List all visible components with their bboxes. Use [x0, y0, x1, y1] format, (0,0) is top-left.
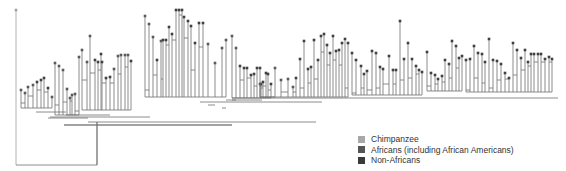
tip-marker: [310, 66, 313, 69]
tip-marker: [109, 76, 112, 79]
tip-marker: [320, 35, 323, 38]
tip-marker: [243, 67, 246, 70]
tip-marker: [94, 59, 97, 62]
tip-marker: [351, 52, 354, 55]
tip-marker: [187, 20, 190, 23]
legend-swatch-africans: [358, 146, 365, 153]
tip-marker: [492, 59, 495, 62]
tip-marker: [246, 67, 249, 70]
tip-marker: [113, 68, 116, 71]
tip-marker: [24, 92, 27, 95]
tip-marker: [231, 35, 234, 38]
tip-marker: [267, 73, 270, 76]
legend-label: Africans (including African Americans): [371, 145, 514, 155]
tip-marker: [81, 49, 84, 52]
tip-marker: [221, 47, 224, 50]
tip-marker: [36, 81, 39, 84]
tip-marker: [421, 71, 424, 74]
tip-marker: [326, 44, 329, 47]
tip-marker: [371, 50, 374, 53]
tip-marker: [544, 58, 547, 61]
tip-marker: [448, 63, 451, 66]
tip-marker: [86, 61, 89, 64]
tip-marker: [127, 54, 130, 57]
tip-marker: [395, 69, 398, 72]
tip-marker: [520, 57, 523, 60]
tip-marker: [430, 72, 433, 75]
legend-label: Chimpanzee: [371, 134, 419, 144]
tip-marker: [481, 53, 484, 56]
tip-marker: [259, 67, 262, 70]
tip-marker: [47, 87, 50, 90]
tip-marker: [66, 88, 69, 91]
tip-marker: [105, 77, 108, 80]
tip-marker: [392, 69, 395, 72]
tip-marker: [78, 56, 81, 59]
tip-marker: [527, 61, 530, 64]
tip-marker: [58, 65, 61, 68]
tip-marker: [469, 58, 472, 61]
tip-marker: [379, 66, 382, 69]
tip-marker: [488, 38, 491, 41]
tip-marker: [437, 78, 440, 81]
tip-marker: [500, 63, 503, 66]
tip-marker: [329, 52, 332, 55]
tip-marker: [411, 58, 414, 61]
tip-marker: [43, 77, 46, 80]
tip-marker: [130, 60, 133, 63]
tip-marker: [418, 69, 421, 72]
tip-marker: [156, 59, 159, 62]
tip-marker: [175, 9, 178, 12]
tip-marker: [148, 23, 151, 26]
tip-marker: [178, 9, 181, 12]
tip-marker: [335, 50, 338, 53]
legend-item-africans: Africans (including African Americans): [358, 145, 514, 156]
tip-marker: [270, 83, 273, 86]
tip-marker: [292, 86, 295, 89]
tip-marker: [152, 36, 155, 39]
tip-marker: [162, 39, 165, 42]
tip-marker: [540, 53, 543, 56]
tip-marker: [117, 55, 120, 58]
tip-marker: [262, 81, 265, 84]
tip-marker: [51, 96, 54, 99]
tip-marker: [27, 86, 30, 89]
legend-item-chimpanzee: Chimpanzee: [358, 134, 514, 145]
tip-marker: [253, 73, 256, 76]
tip-marker: [548, 56, 551, 59]
tip-marker: [341, 42, 344, 45]
tip-marker: [441, 75, 444, 78]
tip-marker: [347, 42, 350, 45]
tip-marker: [323, 33, 326, 36]
tip-marker: [355, 59, 358, 62]
tip-marker: [512, 42, 515, 45]
tree-tips: [15, 9, 554, 100]
tip-marker: [537, 53, 540, 56]
tip-marker: [465, 59, 468, 62]
tip-marker: [54, 62, 57, 65]
tip-marker: [280, 79, 283, 82]
tip-marker: [171, 33, 174, 36]
tip-marker: [32, 84, 35, 87]
tip-marker: [183, 16, 186, 19]
tip-marker: [444, 59, 447, 62]
tip-marker: [524, 49, 527, 52]
tip-marker: [317, 59, 320, 62]
tip-marker: [71, 94, 74, 97]
tip-marker: [504, 72, 507, 75]
legend-label: Non-Africans: [371, 155, 420, 165]
tip-marker: [274, 67, 277, 70]
tip-marker: [74, 93, 77, 96]
tip-marker: [363, 73, 366, 76]
tip-marker: [344, 38, 347, 41]
tip-marker: [100, 53, 103, 56]
tip-marker: [458, 57, 461, 60]
tip-marker: [299, 58, 302, 61]
tip-marker: [508, 77, 511, 80]
tip-marker: [382, 68, 385, 71]
tip-marker: [144, 15, 147, 18]
tip-marker: [256, 67, 259, 70]
tip-marker: [399, 20, 402, 23]
tip-marker: [360, 65, 363, 68]
tip-marker: [190, 25, 193, 28]
